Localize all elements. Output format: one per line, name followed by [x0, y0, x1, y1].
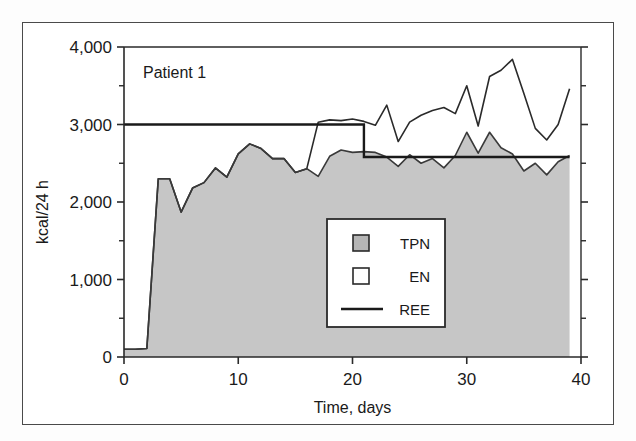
ytick-label: 1,000 [69, 271, 112, 290]
ytick-label: 3,000 [69, 116, 112, 135]
x-axis-title: Time, days [314, 399, 392, 416]
xtick-label: 10 [229, 370, 248, 389]
y-axis-title: kcal/24 h [34, 180, 51, 244]
xtick-label: 40 [572, 370, 591, 389]
figure-container: 01,0002,0003,0004,000010203040Time, days… [0, 0, 636, 441]
ytick-label: 0 [103, 348, 112, 367]
legend-marker-en [353, 268, 369, 284]
ytick-label: 2,000 [69, 193, 112, 212]
chart-canvas: 01,0002,0003,0004,000010203040Time, days… [0, 0, 636, 441]
legend-label-ree: REE [399, 301, 430, 318]
ytick-label: 4,000 [69, 38, 112, 57]
xtick-label: 0 [119, 370, 128, 389]
xtick-label: 20 [343, 370, 362, 389]
legend-marker-tpn [353, 235, 369, 251]
legend-label-tpn: TPN [400, 235, 430, 252]
panel-label: Patient 1 [143, 64, 206, 81]
xtick-label: 30 [457, 370, 476, 389]
legend-label-en: EN [409, 268, 430, 285]
